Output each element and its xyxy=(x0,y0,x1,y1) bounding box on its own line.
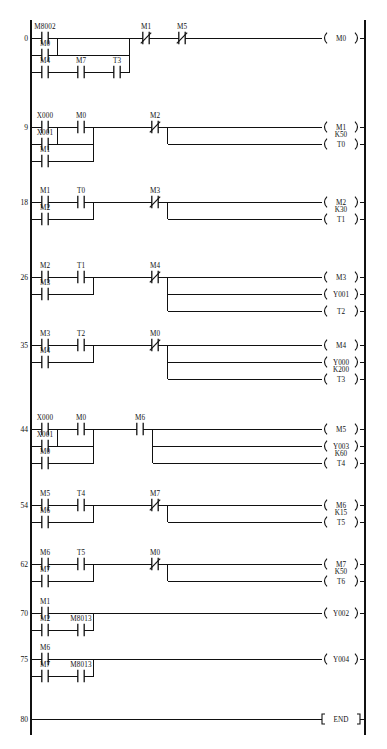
timer-preset-t0: K50 xyxy=(335,131,348,139)
contact-nc-m0[interactable]: M0 xyxy=(148,330,162,351)
contact-no-m0[interactable]: M0 xyxy=(38,448,52,469)
timer-coil-t3[interactable]: T3K200 xyxy=(325,366,366,385)
contact-no-m6[interactable]: M6 xyxy=(133,414,147,435)
contact-no-m0[interactable]: M0 xyxy=(74,414,88,435)
contact-no-m1[interactable]: M1 xyxy=(38,146,52,167)
contact-label-m0: M0 xyxy=(76,414,86,422)
contact-no-m2[interactable]: M2 xyxy=(38,204,52,225)
contact-label-t5: T5 xyxy=(77,549,85,557)
rung-number-75: 75 xyxy=(20,655,28,664)
rung-75: 75M6M7M8013Y004 xyxy=(20,644,365,682)
contact-label-t4: T4 xyxy=(77,490,85,498)
contact-nc-m0[interactable]: M0 xyxy=(148,549,162,570)
contact-nc-m4[interactable]: M4 xyxy=(148,262,162,283)
contact-label-m7: M7 xyxy=(150,490,160,498)
output-coil-y004[interactable]: Y004 xyxy=(325,654,366,665)
contact-no-m7[interactable]: M7 xyxy=(38,566,52,587)
contact-no-t1[interactable]: T1 xyxy=(74,262,88,283)
output-coil-m4[interactable]: M4 xyxy=(325,340,366,351)
contact-label-m7: M7 xyxy=(40,566,50,574)
output-label-m4: M4 xyxy=(336,342,346,350)
output-label-t0: T0 xyxy=(337,141,345,149)
contact-label-x001: X001 xyxy=(37,129,54,137)
contact-label-m7: M7 xyxy=(76,57,86,65)
output-label-t3: T3 xyxy=(337,376,345,384)
output-label-t1: T1 xyxy=(337,216,345,224)
rung-0: 0M8002M0M4M7T3M1M5M0 xyxy=(24,23,365,78)
contact-no-m2[interactable]: M2 xyxy=(38,615,52,636)
contact-no-m3[interactable]: M3 xyxy=(38,279,52,300)
contact-label-m2: M2 xyxy=(40,204,50,212)
contact-nc-m2[interactable]: M2 xyxy=(148,112,162,133)
contact-label-m7: M7 xyxy=(40,661,50,669)
rung-number-70: 70 xyxy=(20,609,28,618)
rung-70: 70M1M2M8013Y002 xyxy=(20,598,365,636)
contact-label-m0: M0 xyxy=(40,448,50,456)
output-label-m3: M3 xyxy=(336,274,346,282)
output-label-y002: Y002 xyxy=(333,610,349,618)
contact-label-m2: M2 xyxy=(40,262,50,270)
contact-no-m7[interactable]: M7 xyxy=(74,57,88,78)
contact-label-t3: T3 xyxy=(113,57,121,65)
contact-no-t2[interactable]: T2 xyxy=(74,330,88,351)
contact-label-m3: M3 xyxy=(40,330,50,338)
rung-number-80: 80 xyxy=(20,715,28,724)
contact-label-t0: T0 xyxy=(77,187,85,195)
timer-preset-t5: K15 xyxy=(335,509,348,517)
contact-no-m4[interactable]: M4 xyxy=(38,347,52,368)
contact-no-m8013[interactable]: M8013 xyxy=(70,661,92,682)
output-label-t6: T6 xyxy=(337,578,345,586)
timer-coil-t0[interactable]: T0K50 xyxy=(325,131,366,150)
rung-number-9: 9 xyxy=(24,123,28,132)
contact-nc-m1[interactable]: M1 xyxy=(139,23,153,44)
output-label-y004: Y004 xyxy=(333,656,349,664)
rung-26: 26M2T1M3M4M3Y001T2 xyxy=(20,262,365,316)
contact-nc-m7[interactable]: M7 xyxy=(148,490,162,511)
contact-label-m8002: M8002 xyxy=(34,23,56,31)
contact-label-m0: M0 xyxy=(150,549,160,557)
output-label-m5: M5 xyxy=(336,426,346,434)
rung-54: 54M5T4M6M7M6T5K15 xyxy=(20,490,365,528)
rung-18: 18M1T0M2M3M2T1K30 xyxy=(20,187,365,225)
contact-no-m6[interactable]: M6 xyxy=(38,507,52,528)
output-coil-m5[interactable]: M5 xyxy=(325,424,366,435)
rung-number-26: 26 xyxy=(20,273,28,282)
output-label-t4: T4 xyxy=(337,460,345,468)
timer-coil-t1[interactable]: T1K30 xyxy=(325,206,366,225)
output-label-y001: Y001 xyxy=(333,291,349,299)
contact-no-m0[interactable]: M0 xyxy=(74,112,88,133)
contact-label-x001: X001 xyxy=(37,431,54,439)
ladder-diagram-canvas: 0M8002M0M4M7T3M1M5M09X000M0X001M1M2M1T0K… xyxy=(0,0,387,749)
output-coil-m0[interactable]: M0 xyxy=(325,33,366,44)
timer-coil-t6[interactable]: T6K50 xyxy=(325,568,366,587)
output-label-m0: M0 xyxy=(336,35,346,43)
rung-number-44: 44 xyxy=(20,425,28,434)
contact-no-m4[interactable]: M4 xyxy=(38,57,52,78)
contact-label-m8013: M8013 xyxy=(70,615,92,623)
contact-label-m6: M6 xyxy=(40,549,50,557)
contact-nc-m3[interactable]: M3 xyxy=(148,187,162,208)
timer-coil-t4[interactable]: T4K60 xyxy=(325,450,366,469)
contact-no-m8013[interactable]: M8013 xyxy=(70,615,92,636)
contact-label-t2: T2 xyxy=(77,330,85,338)
end-instruction[interactable]: END xyxy=(322,714,365,724)
contact-label-m2: M2 xyxy=(40,615,50,623)
contact-nc-m5[interactable]: M5 xyxy=(175,23,189,44)
contact-label-m4: M4 xyxy=(150,262,160,270)
contact-no-t3[interactable]: T3 xyxy=(110,57,124,78)
timer-coil-t5[interactable]: T5K15 xyxy=(325,509,366,528)
contact-label-x000: X000 xyxy=(37,112,54,120)
contact-no-t5[interactable]: T5 xyxy=(74,549,88,570)
contact-no-t4[interactable]: T4 xyxy=(74,490,88,511)
rung-number-18: 18 xyxy=(20,198,28,207)
output-coil-m3[interactable]: M3 xyxy=(325,272,366,283)
contact-label-m5: M5 xyxy=(40,490,50,498)
rung-62: 62M6T5M7M0M7T6K50 xyxy=(20,549,365,587)
timer-preset-t4: K60 xyxy=(335,450,348,458)
contact-no-m7[interactable]: M7 xyxy=(38,661,52,682)
contact-no-t0[interactable]: T0 xyxy=(74,187,88,208)
timer-coil-t2[interactable]: T2 xyxy=(325,306,366,317)
output-coil-y002[interactable]: Y002 xyxy=(325,608,366,619)
output-coil-y001[interactable]: Y001 xyxy=(325,289,366,300)
contact-label-m4: M4 xyxy=(40,347,50,355)
